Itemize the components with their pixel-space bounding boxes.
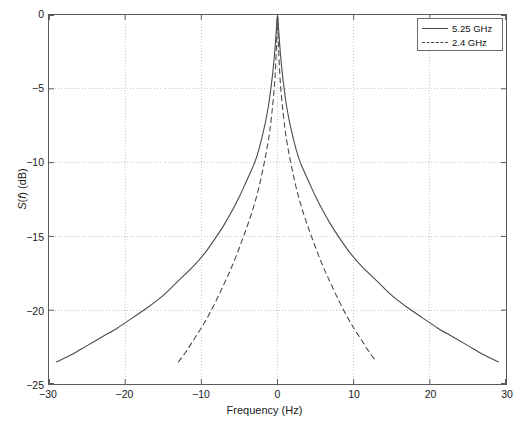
series-line-5-25-ghz (57, 15, 499, 362)
plot-area (48, 14, 507, 385)
y-tick-label: 0 (6, 9, 44, 19)
x-axis-title: Frequency (Hz) (0, 404, 529, 416)
x-tick-label: −30 (26, 389, 70, 399)
legend-line-dashed-icon (422, 37, 448, 47)
y-axis-title-text: S(f) (dB) (16, 168, 28, 210)
x-tick-label: 0 (256, 389, 300, 399)
curve-layer (49, 15, 506, 384)
x-tick-label: 20 (409, 389, 453, 399)
figure-canvas: S(f) (dB) 0−5−10−15−20−25−30−20−10010203… (0, 0, 529, 431)
y-tick-label: −5 (6, 83, 44, 93)
legend-item-5-25ghz: 5.25 GHz (418, 21, 502, 35)
legend-line-solid-icon (422, 23, 448, 33)
x-tick-label: 10 (332, 389, 376, 399)
x-tick-label: 30 (485, 389, 529, 399)
series-line-2-4-ghz (178, 15, 376, 362)
legend-item-2-4ghz: 2.4 GHz (418, 35, 502, 49)
legend-label-5-25ghz: 5.25 GHz (452, 23, 492, 34)
y-tick-label: −10 (6, 157, 44, 167)
y-tick-label: −15 (6, 232, 44, 242)
x-tick-label: −20 (103, 389, 147, 399)
x-tick-label: −10 (179, 389, 223, 399)
legend-label-2-4ghz: 2.4 GHz (452, 37, 487, 48)
chart-legend: 5.25 GHz 2.4 GHz (417, 18, 503, 51)
y-tick-label: −20 (6, 306, 44, 316)
